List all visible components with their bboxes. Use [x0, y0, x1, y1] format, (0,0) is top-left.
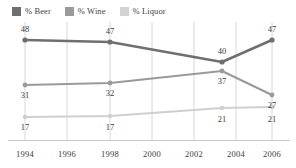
data-point-wine-2007 — [270, 93, 275, 98]
series-line-liquor — [25, 107, 272, 117]
x-tick-1994: 1994 — [16, 149, 34, 159]
legend-swatch-wine — [65, 7, 74, 16]
legend-swatch-beer — [12, 7, 21, 16]
legend-swatch-liquor — [120, 7, 129, 16]
legend-label-wine: % Wine — [78, 6, 106, 16]
legend-item-liquor[interactable]: % Liquor — [120, 6, 166, 16]
data-point-beer-1998 — [107, 39, 112, 44]
legend-label-beer: % Beer — [25, 6, 51, 16]
series-beer — [22, 37, 274, 64]
line-chart: % Beer % Wine % Liquor — [0, 0, 296, 168]
legend-label-liquor: % Liquor — [133, 6, 166, 16]
series-line-wine — [25, 71, 272, 95]
value-label-wine-1994: 31 — [21, 90, 30, 100]
legend-item-beer[interactable]: % Beer — [12, 6, 51, 16]
data-point-liquor-1998 — [108, 114, 112, 118]
data-point-wine-1998 — [108, 81, 113, 86]
series-line-beer — [25, 40, 272, 62]
plot-svg — [0, 22, 296, 140]
value-label-wine-1998: 32 — [106, 88, 115, 98]
x-tick-2006: 2006 — [263, 149, 281, 159]
data-point-liquor-2005 — [220, 106, 224, 110]
data-point-wine-1994 — [23, 83, 28, 88]
value-label-liquor-2007: 21 — [268, 114, 277, 124]
x-tick-1998: 1998 — [101, 149, 119, 159]
value-label-liquor-2005: 21 — [218, 114, 227, 124]
data-point-liquor-1994 — [23, 115, 27, 119]
legend-item-wine[interactable]: % Wine — [65, 6, 106, 16]
x-tick-1996: 1996 — [58, 149, 76, 159]
x-tick-2002: 2002 — [185, 149, 203, 159]
value-label-liquor-1998: 17 — [106, 122, 115, 132]
series-wine — [23, 69, 275, 98]
value-label-wine-2007: 27 — [268, 100, 277, 110]
data-point-beer-2005 — [219, 59, 224, 64]
value-label-liquor-1994: 17 — [21, 122, 30, 132]
chart-legend: % Beer % Wine % Liquor — [0, 3, 296, 19]
x-tick-2004: 2004 — [227, 149, 245, 159]
plot-area: 48 47 40 47 31 32 37 27 17 17 21 21 — [0, 22, 296, 140]
data-point-wine-2005 — [220, 69, 225, 74]
value-label-beer-1998: 47 — [106, 26, 115, 36]
x-axis: 1994 1996 1998 2000 2002 2004 2006 — [0, 140, 296, 168]
value-label-beer-2005: 40 — [218, 46, 227, 56]
value-label-wine-2005: 37 — [218, 76, 227, 86]
x-axis-line — [8, 140, 290, 141]
data-point-beer-2007 — [269, 37, 274, 42]
x-tick-2000: 2000 — [143, 149, 161, 159]
value-label-beer-2007: 47 — [268, 24, 277, 34]
data-point-beer-1994 — [22, 37, 27, 42]
value-label-beer-1994: 48 — [21, 24, 30, 34]
